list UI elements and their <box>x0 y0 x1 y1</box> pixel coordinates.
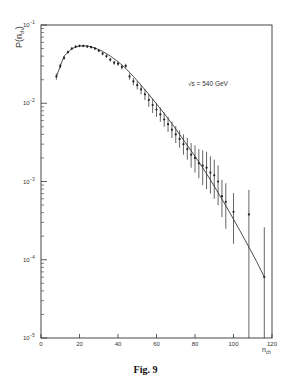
data-point <box>102 52 104 55</box>
x-axis: 020406080100120 <box>39 334 277 347</box>
fit-curve <box>56 46 264 277</box>
data-points <box>55 45 265 338</box>
svg-text:10−5: 10−5 <box>23 333 35 341</box>
data-point <box>113 61 115 65</box>
svg-text:0: 0 <box>39 341 43 347</box>
svg-text:10−4: 10−4 <box>23 255 35 263</box>
svg-text:120: 120 <box>267 341 278 347</box>
plot-frame <box>41 25 272 338</box>
data-point <box>225 183 227 228</box>
data-point <box>217 166 219 206</box>
data-point <box>263 227 265 338</box>
data-point <box>213 160 215 199</box>
multiplicity-distribution-chart: 10−510−410−310−210−1 020406080100120 √s … <box>0 0 291 387</box>
data-point <box>175 126 177 143</box>
data-point <box>128 73 130 79</box>
data-point <box>202 150 204 185</box>
data-point <box>186 138 188 160</box>
data-point <box>182 134 184 154</box>
svg-text:40: 40 <box>115 341 122 347</box>
data-point <box>136 81 138 89</box>
svg-text:100: 100 <box>228 341 239 347</box>
data-point <box>82 45 84 48</box>
data-point <box>248 190 250 338</box>
data-point <box>209 156 211 193</box>
svg-text:nch: nch <box>262 346 271 355</box>
svg-text:20: 20 <box>76 341 83 347</box>
data-point <box>190 143 192 168</box>
data-point <box>109 58 111 62</box>
data-point <box>194 145 196 172</box>
svg-text:60: 60 <box>153 341 160 347</box>
data-point <box>132 78 134 85</box>
svg-text:80: 80 <box>192 341 199 347</box>
svg-text:10−3: 10−3 <box>23 177 35 185</box>
figure-caption: Fig. 9 <box>0 364 291 375</box>
svg-text:P(nch): P(nch) <box>14 26 25 48</box>
y-axis-label: P(nch) <box>14 26 25 48</box>
svg-text:10−2: 10−2 <box>23 98 35 106</box>
energy-annotation: √s = 540 GeV <box>188 80 229 87</box>
svg-text:10−1: 10−1 <box>23 20 35 28</box>
x-axis-label: nch <box>262 346 271 355</box>
y-axis: 10−510−410−310−210−1 <box>23 20 47 341</box>
data-point <box>205 152 207 189</box>
data-point <box>78 45 80 48</box>
data-point <box>105 54 107 57</box>
data-point <box>198 149 200 178</box>
data-point <box>148 94 150 106</box>
